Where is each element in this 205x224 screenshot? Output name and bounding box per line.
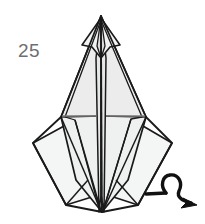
turn-over-arrow-tail [146,193,166,194]
turn-over-arrowhead [181,198,197,208]
center-spine-fold [101,18,102,212]
turn-over-arrow-loop [163,175,191,203]
origami-step-figure: 25 [0,0,205,224]
turn-over-arrow [146,175,197,208]
origami-diagram-canvas: 25 [0,0,205,224]
step-number: 25 [18,40,40,61]
paper-model-group [33,16,172,212]
